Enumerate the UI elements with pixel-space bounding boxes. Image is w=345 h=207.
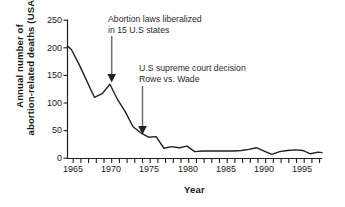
x-axis-title-text: Year [184, 184, 205, 195]
annotation-roe-v-wade-line-2: Rowe vs. Wade [139, 74, 246, 85]
x-axis-title: Year [0, 184, 345, 195]
x-axis-ticks [73, 159, 319, 164]
annotation-arrow-liberalized-laws [107, 36, 116, 83]
chart-figure: Annual number of abortion-related deaths… [0, 0, 345, 207]
annotation-roe-v-wade: U.S supreme court decision Rowe vs. Wade [139, 63, 246, 84]
annotation-arrow-roe-v-wade [138, 86, 147, 135]
annotation-liberalized-laws: Abortion laws liberalized in 15 U.S stat… [108, 14, 202, 35]
annotation-liberalized-laws-line-2: in 15 U.S states [108, 25, 202, 36]
annotation-roe-v-wade-line-1: U.S supreme court decision [139, 63, 246, 74]
annotation-liberalized-laws-line-1: Abortion laws liberalized [108, 14, 202, 25]
